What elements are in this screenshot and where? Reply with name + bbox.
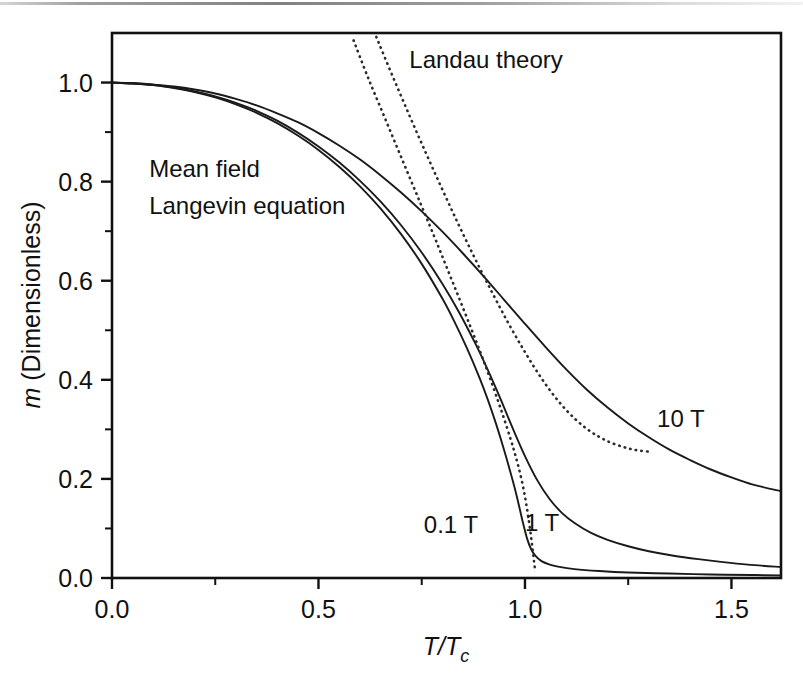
annotation-0-1-t: 0.1 T	[424, 511, 479, 538]
x-tick-label: 1.5	[714, 595, 749, 623]
annotation-mean-field: Mean field	[149, 155, 260, 182]
annotation-1-t: 1 T	[525, 509, 560, 536]
annotation-landau-theory: Landau theory	[409, 46, 562, 73]
y-tick-label: 1.0	[58, 69, 93, 97]
y-tick-label: 0.2	[58, 465, 93, 493]
chart-svg: 0.00.51.01.5 0.00.20.40.60.81.0 Landau t…	[0, 0, 803, 689]
x-tick-label: 1.0	[508, 595, 543, 623]
y-axis-tick-labels: 0.00.20.40.60.81.0	[58, 69, 93, 592]
x-axis-tick-labels: 0.00.51.01.5	[95, 595, 749, 623]
annotation-10-t: 10 T	[657, 405, 705, 432]
y-axis-title: m (Dimensionless)	[17, 202, 45, 409]
curve-landau-theory-high-field	[376, 37, 649, 452]
y-tick-label: 0.6	[58, 267, 93, 295]
x-tick-label: 0.5	[301, 595, 336, 623]
annotation-langevin-equation: Langevin equation	[149, 192, 345, 219]
y-tick-label: 0.8	[58, 168, 93, 196]
x-tick-label: 0.0	[95, 595, 130, 623]
x-axis-title: T/Tc	[423, 632, 470, 666]
data-curves	[112, 37, 781, 576]
y-tick-label: 0.0	[58, 564, 93, 592]
figure-container: 0.00.51.01.5 0.00.20.40.60.81.0 Landau t…	[0, 0, 803, 689]
curve-landau-theory-low-field	[354, 40, 536, 572]
y-tick-label: 0.4	[58, 366, 93, 394]
curve-annotations: Landau theoryMean fieldLangevin equation…	[149, 46, 705, 539]
